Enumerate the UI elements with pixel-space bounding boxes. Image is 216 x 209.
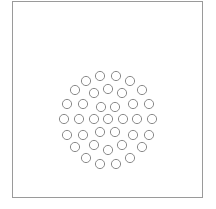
circle-node: [144, 99, 153, 108]
circle-node: [125, 153, 134, 162]
circle-node: [128, 130, 137, 139]
circle-node: [78, 99, 87, 108]
circle-node: [81, 153, 90, 162]
circle-node: [103, 84, 112, 93]
circle-node: [111, 159, 120, 168]
circle-node: [128, 99, 137, 108]
circle-node: [89, 88, 98, 97]
circle-node: [96, 102, 105, 111]
circle-node: [118, 114, 127, 123]
circle-node: [137, 85, 146, 94]
circle-node: [95, 159, 104, 168]
circle-node: [111, 71, 120, 80]
circle-node: [125, 76, 134, 85]
circle-node: [144, 130, 153, 139]
circle-node: [89, 140, 98, 149]
circle-node: [81, 76, 90, 85]
circle-node: [147, 114, 156, 123]
circle-node: [132, 114, 141, 123]
circle-cluster: [0, 0, 216, 209]
circle-node: [95, 127, 104, 136]
circle-node: [110, 102, 119, 111]
circle-node: [70, 85, 79, 94]
circle-node: [62, 99, 71, 108]
circle-node: [103, 145, 112, 154]
circle-node: [103, 114, 112, 123]
circle-node: [78, 130, 87, 139]
circle-node: [70, 142, 79, 151]
circle-node: [62, 130, 71, 139]
circle-node: [95, 71, 104, 80]
circle-node: [89, 114, 98, 123]
circle-node: [74, 114, 83, 123]
circle-node: [137, 142, 146, 151]
circle-node: [110, 127, 119, 136]
circle-node: [59, 114, 68, 123]
circle-node: [117, 140, 126, 149]
circle-node: [117, 88, 126, 97]
